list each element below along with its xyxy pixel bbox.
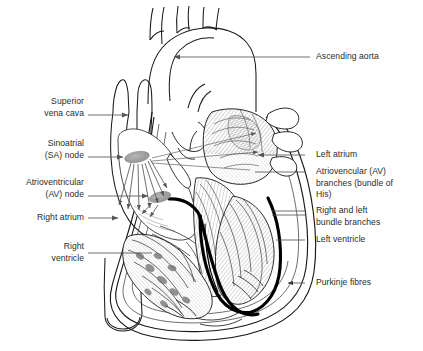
- label-superior-vena-cava: Superior vena cava: [0, 96, 84, 119]
- ascending-aorta-and-arch: [148, 6, 256, 112]
- label-av-branches: Atriovencular (AV) branches (bundle of H…: [316, 166, 423, 201]
- heart-outline-group: [88, 6, 316, 340]
- label-purkinje-fibres: Purkinje fibres: [316, 277, 423, 289]
- label-left-atrium: Left atrium: [316, 149, 423, 161]
- heart-conduction-diagram: Superior vena cava Sinoatrial (SA) node …: [0, 0, 423, 351]
- label-atrioventricular-node: Atrioventricular (AV) node: [0, 177, 84, 200]
- semilunar-valve-cusps: [172, 122, 207, 159]
- label-bundle-branches: Right and left bundle branches: [316, 205, 423, 228]
- label-right-ventricle: Right ventricle: [0, 241, 84, 264]
- label-ascending-aorta: Ascending aorta: [316, 51, 423, 63]
- label-left-ventricle: Left ventricle: [316, 234, 423, 246]
- label-sinoatrial-node: Sinoatrial (SA) node: [0, 138, 84, 161]
- label-right-atrium: Right atrium: [0, 212, 84, 224]
